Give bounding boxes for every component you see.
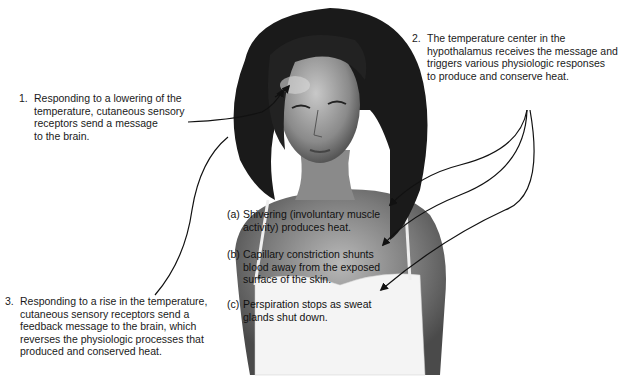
response-c-perspiration: (c) Perspiration stops as sweat glands s… bbox=[227, 298, 427, 323]
response-c-text: Perspiration stops as sweat glands shut … bbox=[227, 298, 427, 323]
response-a-shivering: (a) Shivering (involuntary muscle activi… bbox=[227, 208, 427, 233]
response-b-text: Capillary constriction shunts blood away… bbox=[227, 248, 427, 286]
response-c-letter: (c) bbox=[227, 298, 239, 311]
step-1-number: 1. bbox=[19, 92, 28, 105]
step-3-text: Responding to a rise in the temperature,… bbox=[5, 295, 220, 358]
response-a-letter: (a) bbox=[227, 208, 240, 221]
step-2-number: 2. bbox=[412, 32, 421, 45]
step-3-number: 3. bbox=[5, 295, 14, 308]
step-1-callout: 1. Responding to a lowering of the tempe… bbox=[19, 92, 219, 142]
step-2-callout: 2. The temperature center in the hypotha… bbox=[412, 32, 641, 82]
response-b-capillary-constriction: (b) Capillary constriction shunts blood … bbox=[227, 248, 427, 286]
arrow-step-3 bbox=[155, 137, 228, 295]
response-a-text: Shivering (involuntary muscle activity) … bbox=[227, 208, 427, 233]
step-3-callout: 3. Responding to a rise in the temperatu… bbox=[5, 295, 220, 358]
step-1-text: Responding to a lowering of the temperat… bbox=[19, 92, 219, 142]
response-b-letter: (b) bbox=[227, 248, 240, 261]
step-2-text: The temperature center in the hypothalam… bbox=[412, 32, 641, 82]
